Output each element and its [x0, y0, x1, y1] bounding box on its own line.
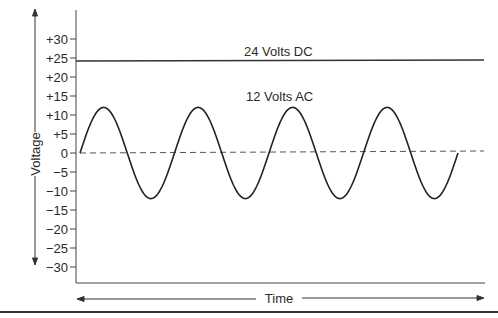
- y-ticks: +30+25+20+15+10+50−5−10−15−20−25−30: [46, 32, 76, 275]
- y-tick-label: +20: [46, 70, 68, 85]
- y-tick-label: −30: [46, 260, 68, 275]
- voltage-diagram: Voltage +30+25+20+15+10+50−5−10−15−20−25…: [0, 0, 498, 318]
- ac-sine-wave: [80, 107, 458, 198]
- y-tick-label: −15: [46, 203, 68, 218]
- y-tick-label: 0: [61, 146, 68, 161]
- y-tick-label: −5: [53, 165, 68, 180]
- y-tick-label: +30: [46, 32, 68, 47]
- y-tick-label: +10: [46, 108, 68, 123]
- ac-label: 12 Volts AC: [246, 89, 313, 104]
- y-tick-label: +15: [46, 89, 68, 104]
- y-tick-label: +5: [53, 127, 68, 142]
- y-tick-label: −10: [46, 184, 68, 199]
- dc-label: 24 Volts DC: [244, 44, 313, 59]
- x-axis-label: Time: [265, 291, 293, 306]
- y-tick-label: −20: [46, 222, 68, 237]
- y-axis-label: Voltage: [28, 132, 43, 175]
- y-tick-label: +25: [46, 51, 68, 66]
- dc-line: [76, 60, 484, 61]
- y-tick-label: −25: [46, 241, 68, 256]
- zero-reference-line: [80, 151, 484, 153]
